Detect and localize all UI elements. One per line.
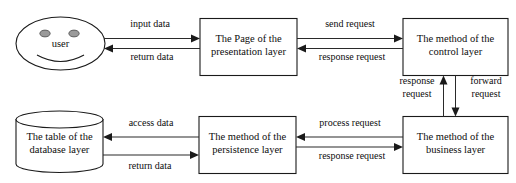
edge-return-data-bottom-arrowhead [190, 151, 199, 159]
node-database-layer[interactable]: The table of the database layer [16, 111, 103, 172]
edge-send-request-label: send request [325, 18, 375, 29]
edge-access-data-arrowhead [103, 133, 112, 141]
edge-response-request-vertical: response request [400, 75, 448, 117]
edge-response-request-top-arrowhead [297, 45, 306, 53]
node-user-label: user [52, 38, 70, 49]
edge-process-request-arrowhead [296, 133, 305, 141]
edge-response-request-top-label: response request [319, 51, 386, 62]
edge-forward-request-vertical-label-line1: forward [470, 75, 502, 86]
persistence-layer-label-line2: persistence layer [212, 144, 283, 155]
architecture-diagram-canvas: user The Page of the presentation layer … [0, 0, 516, 183]
diagram-svg: user The Page of the presentation layer … [0, 0, 516, 183]
user-left-eye-icon [40, 30, 50, 37]
edge-response-request-vertical-arrowhead [440, 76, 448, 85]
edge-access-data: access data [103, 117, 199, 141]
edge-input-data-arrowhead [191, 35, 200, 43]
business-layer-label-line2: business layer [426, 144, 486, 155]
edge-process-request: process request [296, 117, 403, 141]
edge-response-request-vertical-label-line2: request [403, 88, 432, 99]
node-business-layer[interactable]: The method of the business layer [403, 117, 508, 174]
edge-access-data-label: access data [129, 117, 174, 128]
edge-return-data-top-label: return data [130, 51, 174, 62]
edge-response-request-bottom-label: response request [319, 150, 386, 161]
edge-forward-request-vertical: forward request [452, 75, 502, 117]
node-control-layer[interactable]: The method of the control layer [403, 19, 508, 76]
edge-input-data: input data [104, 18, 200, 43]
edge-send-request-arrowhead [394, 35, 403, 43]
edge-response-request-vertical-label-line1: response [400, 75, 436, 86]
persistence-layer-label-line1: The method of the [209, 131, 287, 142]
business-layer-label-line1: The method of the [417, 131, 495, 142]
database-cylinder-top [16, 111, 103, 128]
edge-response-request-top: response request [297, 45, 403, 63]
edge-return-data-top: return data [104, 45, 200, 63]
node-user[interactable]: user [16, 17, 105, 70]
edge-forward-request-vertical-label-line2: request [472, 88, 501, 99]
database-layer-label-line2: database layer [30, 144, 90, 155]
database-layer-label-line1: The table of the [26, 131, 93, 142]
presentation-layer-label-line1: The Page of the [215, 33, 282, 44]
edge-send-request: send request [297, 18, 403, 43]
control-layer-label-line2: control layer [429, 46, 483, 57]
user-right-eye-icon [69, 30, 79, 37]
edge-input-data-label: input data [130, 18, 170, 29]
presentation-layer-label-line2: presentation layer [211, 46, 286, 57]
edge-return-data-bottom: return data [103, 151, 199, 171]
node-presentation-layer[interactable]: The Page of the presentation layer [200, 19, 297, 76]
edge-response-request-bottom-arrowhead [394, 143, 403, 151]
node-persistence-layer[interactable]: The method of the persistence layer [199, 117, 296, 174]
edge-process-request-label: process request [319, 117, 381, 128]
edge-forward-request-vertical-arrowhead [452, 108, 460, 117]
edge-return-data-bottom-label: return data [128, 160, 172, 171]
edge-response-request-bottom: response request [296, 143, 403, 161]
control-layer-label-line1: The method of the [417, 33, 495, 44]
